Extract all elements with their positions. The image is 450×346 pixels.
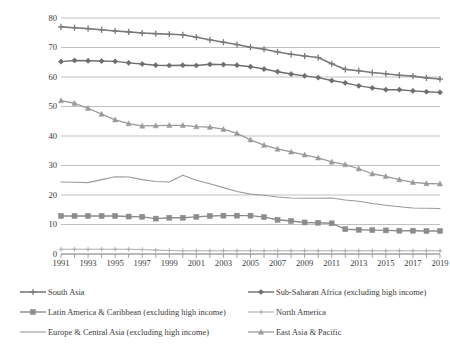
data-point-marker [343,248,348,253]
y-axis-tick-labels: 01020304050607080 [33,18,57,254]
data-point-marker [194,248,199,253]
data-point-marker [410,88,415,93]
data-point-marker [58,59,63,64]
data-point-marker [370,85,375,90]
data-point-marker [180,32,186,38]
data-point-marker [289,248,294,253]
data-point-marker [113,213,118,218]
legend-label: South Asia [48,288,85,297]
legend-item[interactable]: East Asia & Pacific [248,325,341,339]
data-point-marker [113,247,118,252]
data-point-marker [153,216,158,221]
data-point-marker [234,213,239,218]
data-point-marker [85,58,90,63]
data-point-marker [181,248,186,253]
data-point-marker [208,248,213,253]
data-point-marker [86,213,91,218]
data-point-marker [86,247,91,252]
data-point-marker [72,247,77,252]
data-point-marker [167,215,172,220]
data-point-marker [153,63,158,68]
data-point-marker [113,59,118,64]
data-point-marker [397,228,402,233]
data-point-marker [383,71,389,77]
legend-swatch [248,326,274,338]
chart-container: Female employement in agriculture (% of … [0,0,450,346]
data-point-marker [261,46,267,52]
data-point-marker [194,63,199,68]
data-point-marker [356,68,362,74]
data-point-marker [221,213,226,218]
y-tick-label: 20 [35,191,57,200]
data-point-marker [247,44,253,50]
data-point-marker [384,248,389,253]
data-point-marker [316,220,321,225]
data-point-marker [274,49,280,55]
data-point-marker [316,248,321,253]
data-point-marker [248,64,253,69]
data-point-marker [302,248,307,253]
chart-legend: South AsiaSub-Saharan Africa (excluding … [8,285,444,343]
legend-item[interactable]: Sub-Saharan Africa (excluding high incom… [248,285,426,299]
data-point-marker [396,72,402,78]
data-point-marker [126,29,132,35]
data-point-marker [275,248,280,253]
data-point-marker [72,213,77,218]
data-point-marker [397,248,402,253]
x-axis-tick-labels: 1991199319951997199920012003200520072009… [61,258,440,272]
plot-svg [61,18,440,254]
legend-item[interactable]: Latin America & Caribbean (excluding hig… [20,305,226,319]
data-point-marker [99,213,104,218]
data-point-marker [424,228,429,233]
data-point-marker [356,248,361,253]
data-point-marker [59,247,64,252]
data-point-marker [220,39,226,45]
data-point-marker [289,218,294,223]
data-point-marker [167,63,172,68]
legend-label: Latin America & Caribbean (excluding hig… [48,308,226,317]
data-point-marker [140,61,145,66]
legend-swatch [248,286,274,298]
data-point-marker [329,78,334,83]
legend-item[interactable]: North America [248,305,326,319]
data-point-marker [288,51,294,57]
y-tick-label: 30 [35,161,57,170]
legend-item[interactable]: South Asia [20,285,85,299]
data-point-marker [315,54,321,60]
data-point-marker [289,71,294,76]
legend-item[interactable]: Europe & Central Asia (excluding high in… [20,325,209,339]
data-point-marker [180,215,185,220]
data-point-marker [302,73,307,78]
data-point-marker [329,61,335,67]
series-south-asia [58,24,443,82]
data-point-marker [302,53,308,59]
data-point-marker [153,248,158,253]
data-point-marker [207,37,213,43]
data-point-marker [30,289,36,295]
data-point-marker [329,221,334,226]
data-point-marker [248,248,253,253]
data-point-marker [329,248,334,253]
data-point-marker [99,27,105,33]
data-point-marker [126,214,131,219]
data-point-marker [356,83,361,88]
data-point-marker [126,60,131,65]
y-tick-label: 60 [35,73,57,82]
data-point-marker [58,24,64,30]
data-point-marker [140,247,145,252]
data-point-marker [207,62,212,67]
data-point-marker [99,247,104,252]
series-north-america [59,247,443,253]
legend-swatch [20,326,46,338]
y-tick-label: 40 [35,132,57,141]
data-point-marker [234,63,239,68]
data-point-marker [153,31,159,37]
data-point-marker [343,80,348,85]
data-point-marker [423,75,429,81]
legend-label: Sub-Saharan Africa (excluding high incom… [276,288,426,297]
data-point-marker [207,213,212,218]
y-tick-label: 50 [35,102,57,111]
data-point-marker [193,34,199,40]
data-point-marker [71,25,77,31]
legend-label: East Asia & Pacific [276,328,341,337]
